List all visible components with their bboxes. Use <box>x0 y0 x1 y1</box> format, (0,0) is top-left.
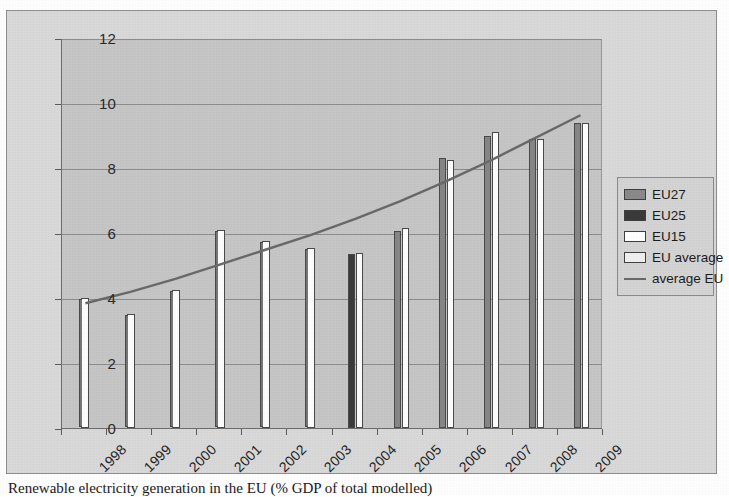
chart-legend: EU27EU25EU15EU averageaverage EU <box>617 177 714 296</box>
legend-item-eu25: EU25 <box>624 205 708 226</box>
x-tick-label-1999: 1999 <box>140 441 174 475</box>
legend-label: EU25 <box>652 208 686 223</box>
x-tick-label-2000: 2000 <box>185 441 219 475</box>
x-tick-mark-12 <box>602 429 603 435</box>
legend-label: EU27 <box>652 187 686 202</box>
x-tick-mark-8 <box>422 429 423 435</box>
x-tick-mark-2 <box>151 429 152 435</box>
x-tick-label-2004: 2004 <box>365 441 399 475</box>
plot-area <box>61 39 602 429</box>
x-tick-label-2002: 2002 <box>275 441 309 475</box>
y-tick-mark-8 <box>55 169 61 170</box>
y-tick-mark-2 <box>55 364 61 365</box>
x-tick-mark-1 <box>106 429 107 435</box>
y-tick-label-2: 2 <box>76 355 116 372</box>
x-tick-mark-6 <box>332 429 333 435</box>
x-tick-mark-3 <box>196 429 197 435</box>
legend-item-eu15: EU15 <box>624 226 708 247</box>
trendline-average-eu <box>62 39 602 428</box>
legend-item-eu-average: EU average <box>624 247 708 268</box>
legend-label: average EU <box>652 271 723 286</box>
chart-frame: 024681012 199819992000200120022003200420… <box>6 10 717 474</box>
x-tick-label-2005: 2005 <box>410 441 444 475</box>
x-tick-label-2006: 2006 <box>455 441 489 475</box>
x-tick-label-2001: 2001 <box>230 441 264 475</box>
legend-swatch-icon-eu27 <box>624 189 646 200</box>
x-tick-mark-11 <box>557 429 558 435</box>
y-tick-mark-12 <box>55 39 61 40</box>
y-tick-mark-4 <box>55 299 61 300</box>
x-tick-label-2003: 2003 <box>320 441 354 475</box>
legend-swatch-icon-eu15 <box>624 231 646 242</box>
x-tick-label-2008: 2008 <box>546 441 580 475</box>
y-tick-label-4: 4 <box>76 290 116 307</box>
y-tick-label-8: 8 <box>76 160 116 177</box>
x-tick-label-2007: 2007 <box>501 441 535 475</box>
legend-item-average-eu: average EU <box>624 268 708 289</box>
legend-swatch-icon-line <box>624 273 646 284</box>
legend-item-eu27: EU27 <box>624 184 708 205</box>
legend-swatch-icon-eu25 <box>624 210 646 221</box>
figure-caption: Renewable electricity generation in the … <box>8 480 708 497</box>
x-tick-mark-10 <box>512 429 513 435</box>
y-tick-label-6: 6 <box>76 225 116 242</box>
x-tick-mark-9 <box>467 429 468 435</box>
y-tick-mark-6 <box>55 234 61 235</box>
legend-label: EU average <box>652 250 723 265</box>
x-tick-label-1998: 1998 <box>95 441 129 475</box>
y-tick-label-10: 10 <box>76 95 116 112</box>
legend-swatch-icon-euavg <box>624 252 646 263</box>
y-tick-label-12: 12 <box>76 30 116 47</box>
x-tick-mark-5 <box>286 429 287 435</box>
x-tick-mark-4 <box>241 429 242 435</box>
x-tick-mark-0 <box>61 429 62 435</box>
x-tick-mark-7 <box>377 429 378 435</box>
y-tick-mark-10 <box>55 104 61 105</box>
legend-label: EU15 <box>652 229 686 244</box>
x-tick-label-2009: 2009 <box>591 441 625 475</box>
